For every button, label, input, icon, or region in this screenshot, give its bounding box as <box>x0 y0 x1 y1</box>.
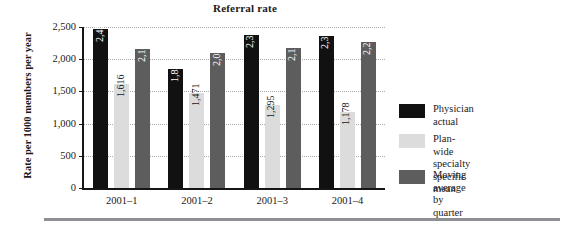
bar-value-label: 1,471 <box>190 84 200 107</box>
legend-label: Physician actual <box>433 103 474 128</box>
y-axis-tick-label: 1,000 <box>32 119 76 129</box>
legend-swatch <box>399 170 425 184</box>
legend-label: Moving average by quarter <box>433 169 466 219</box>
bar-value-label: 1,178 <box>341 103 351 126</box>
y-axis-tick-label: 0 <box>32 183 76 193</box>
x-axis-tick-label: 2001–2 <box>159 195 235 206</box>
y-axis-tick-label: 500 <box>32 151 76 161</box>
x-axis-tick-label: 2001–3 <box>234 195 310 206</box>
y-axis-tick-label: 1,500 <box>32 86 76 96</box>
y-axis-line <box>82 27 84 189</box>
bar-value-label: 2,174 <box>287 39 297 62</box>
y-axis-tick-mark <box>79 91 84 92</box>
legend-item[interactable]: Moving average by quarter <box>399 170 466 219</box>
bar-value-label: 2,355 <box>320 27 330 50</box>
bar[interactable]: 1,471 <box>189 93 204 188</box>
y-axis-tick-label: 2,500 <box>32 22 76 32</box>
referral-rate-chart-figure: Referral rate Rate per 1000 members per … <box>0 0 575 230</box>
bar-value-label: 2,163 <box>136 39 146 62</box>
legend-swatch <box>399 104 425 118</box>
plot-area: 05001,0001,5002,0002,500 2,4651,6162,163… <box>84 27 385 188</box>
x-axis-tick-label: 2001–1 <box>84 195 160 206</box>
bar-value-label: 1,844 <box>169 60 179 83</box>
chart-title: Referral rate <box>140 2 350 14</box>
bar-value-label: 1,616 <box>115 74 125 97</box>
y-axis-title: Rate per 1000 members per year <box>22 16 33 196</box>
bar[interactable]: 1,616 <box>114 84 129 188</box>
bar[interactable]: 2,089 <box>210 53 225 188</box>
legend-item[interactable]: Physician actual <box>399 104 474 128</box>
bar-value-label: 1,295 <box>266 95 276 118</box>
bar[interactable]: 1,295 <box>265 105 280 188</box>
bar[interactable]: 1,178 <box>340 112 355 188</box>
bar[interactable]: 2,174 <box>286 48 301 188</box>
x-axis-tick-label: 2001–4 <box>309 195 385 206</box>
y-axis-tick-mark <box>79 156 84 157</box>
bar[interactable]: 2,355 <box>319 36 334 188</box>
y-axis-tick-mark <box>79 124 84 125</box>
bar[interactable]: 2,465 <box>93 29 108 188</box>
legend-swatch <box>399 134 425 148</box>
x-axis-line <box>82 188 385 190</box>
gridline <box>84 59 385 60</box>
bar[interactable]: 2,373 <box>244 35 259 188</box>
bar-value-label: 2,465 <box>94 20 104 43</box>
y-axis-tick-mark <box>79 59 84 60</box>
bar-value-label: 2,373 <box>245 26 255 49</box>
bar-value-label: 2,089 <box>211 44 221 67</box>
bar[interactable]: 2,163 <box>135 49 150 188</box>
bar-value-label: 2,263 <box>362 33 372 56</box>
gridline <box>84 27 385 28</box>
y-axis-tick-label: 2,000 <box>32 54 76 64</box>
footer-divider <box>44 218 560 221</box>
y-axis-tick-mark <box>79 27 84 28</box>
gridline <box>84 91 385 92</box>
bar[interactable]: 2,263 <box>361 42 376 188</box>
y-axis-tick-mark <box>79 188 84 189</box>
bar[interactable]: 1,844 <box>168 69 183 188</box>
